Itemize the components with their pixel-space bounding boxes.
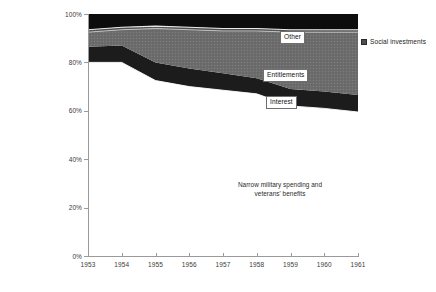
x-tick-1954 [122,253,123,257]
y-axis-line [88,14,89,257]
band-label-interest: Interest [266,96,297,109]
legend-label-social-investments: Social investments [370,38,426,46]
x-tick-1957 [223,253,224,257]
y-tick-label-20%: 20% [40,204,82,211]
x-tick-1956 [189,253,190,257]
y-tick-label-60%: 60% [40,107,82,114]
legend: Social investments [361,38,426,46]
x-tick-1958 [257,253,258,257]
y-tick-80% [84,62,88,63]
plot-area: Other Entitlements Interest Narrow milit… [88,14,358,256]
legend-swatch-social-investments [361,39,367,45]
y-tick-20% [84,208,88,209]
y-tick-label-80%: 80% [40,59,82,66]
plot-svg [88,14,358,256]
band-label-military-line2: veterans' benefits [218,189,342,198]
y-tick-40% [84,159,88,160]
y-tick-label-100%: 100% [40,11,82,18]
x-tick-1960 [324,253,325,257]
band-label-military: Narrow military spending and veterans' b… [218,180,342,198]
band-label-entitlements: Entitlements [263,69,308,82]
x-tick-label-1961: 1961 [338,261,378,268]
y-tick-label-40%: 40% [40,156,82,163]
x-tick-1959 [291,253,292,257]
band-label-military-line1: Narrow military spending and [218,180,342,189]
x-tick-1961 [358,253,359,257]
band-label-other: Other [280,31,305,44]
y-tick-label-0%: 0% [40,253,82,260]
x-tick-1953 [88,253,89,257]
y-tick-60% [84,111,88,112]
stacked-area-chart: Other Entitlements Interest Narrow milit… [0,0,436,292]
x-tick-1955 [156,253,157,257]
y-tick-100% [84,14,88,15]
